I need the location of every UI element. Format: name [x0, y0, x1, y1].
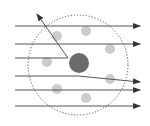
electron	[81, 26, 91, 36]
electron	[52, 84, 62, 94]
electron	[81, 93, 91, 103]
electron	[105, 44, 115, 54]
scattering-diagram	[0, 0, 150, 126]
ray-slightly-deflected	[15, 76, 140, 82]
nucleus	[69, 53, 89, 73]
electron	[52, 31, 62, 41]
